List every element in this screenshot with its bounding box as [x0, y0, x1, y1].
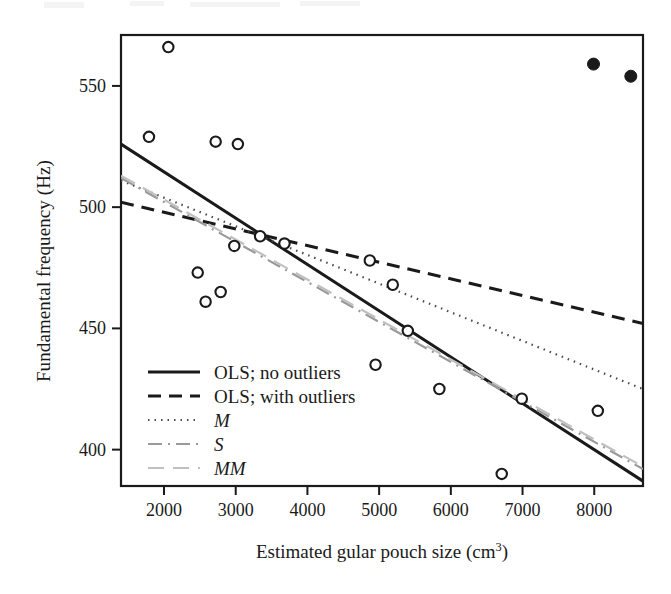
- data-point[interactable]: [434, 384, 444, 394]
- y-axis-tick-label: 400: [79, 440, 106, 460]
- x-axis-label-suffix: ): [502, 541, 508, 562]
- y-axis-tick-label: 500: [79, 197, 106, 217]
- x-axis-tick-label: 8000: [576, 500, 612, 520]
- data-point[interactable]: [365, 255, 375, 265]
- data-point[interactable]: [144, 132, 154, 142]
- data-point[interactable]: [517, 394, 527, 404]
- data-point[interactable]: [370, 360, 380, 370]
- x-axis-tick-label: 2000: [146, 500, 182, 520]
- fit-line-longdash: [121, 176, 643, 467]
- legend-label: OLS; no outliers: [214, 362, 341, 383]
- data-point[interactable]: [229, 241, 239, 251]
- y-axis-tick-label: 550: [79, 76, 106, 96]
- fit-line-solid: [121, 144, 643, 481]
- legend-label: S: [214, 434, 224, 455]
- x-axis-tick-label: 3000: [218, 500, 254, 520]
- data-point[interactable]: [200, 297, 210, 307]
- x-axis-tick-label: 4000: [289, 500, 325, 520]
- data-point-outlier[interactable]: [588, 58, 600, 70]
- data-point[interactable]: [403, 326, 413, 336]
- data-point[interactable]: [210, 136, 220, 146]
- fit-line-dashdot: [121, 178, 643, 469]
- fit-lines-group: [121, 144, 643, 481]
- data-point[interactable]: [279, 238, 289, 248]
- y-axis-tick-label: 450: [79, 318, 106, 338]
- figure-container: 2000300040005000600070008000550500450400…: [0, 0, 671, 594]
- data-point[interactable]: [215, 287, 225, 297]
- legend-label: MM: [213, 458, 247, 479]
- legend-label: M: [213, 410, 231, 431]
- legend-label: OLS; with outliers: [214, 386, 355, 407]
- scatter-plot: 2000300040005000600070008000550500450400…: [0, 0, 671, 594]
- data-point-outlier[interactable]: [625, 70, 637, 82]
- data-point[interactable]: [193, 267, 203, 277]
- y-axis-label: Fundamental frequency (Hz): [33, 141, 55, 401]
- data-point[interactable]: [497, 469, 507, 479]
- data-point[interactable]: [593, 406, 603, 416]
- x-axis-tick-label: 7000: [505, 500, 541, 520]
- fit-line-dotted: [121, 180, 643, 389]
- x-axis-tick-label: 6000: [433, 500, 469, 520]
- data-point[interactable]: [388, 280, 398, 290]
- x-axis-label: Estimated gular pouch size (cm3): [121, 540, 643, 563]
- x-axis-label-prefix: Estimated gular pouch size (cm: [256, 541, 496, 562]
- x-axis-tick-label: 5000: [361, 500, 397, 520]
- data-point[interactable]: [233, 139, 243, 149]
- plot-frame: [121, 35, 643, 486]
- data-point[interactable]: [163, 42, 173, 52]
- data-point[interactable]: [255, 231, 265, 241]
